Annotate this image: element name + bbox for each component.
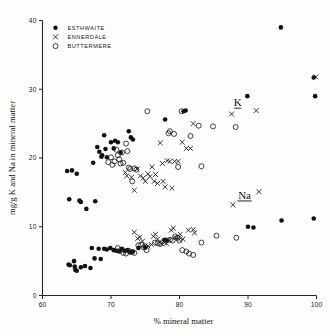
legend-marker-buttermere-icon (53, 44, 58, 49)
point-0-39 (88, 266, 93, 271)
y-tick-label-10: 10 (29, 223, 37, 230)
annotation-k: K (234, 96, 242, 108)
point-0-2 (67, 197, 72, 202)
legend-label-ennerdale: ENNERDALE (68, 34, 107, 40)
point-0-27 (245, 94, 250, 99)
x-tick-label-80: 80 (176, 301, 184, 308)
point-0-59 (246, 224, 251, 229)
series-ennerdale (123, 74, 318, 248)
point-0-6 (84, 207, 89, 212)
point-0-19 (116, 140, 121, 145)
point-0-24 (163, 117, 168, 122)
x-tick-label-60: 60 (39, 301, 47, 308)
legend-marker-ennerdale-icon (53, 34, 58, 39)
point-0-7 (91, 161, 96, 166)
point-0-8 (93, 199, 98, 204)
point-1-5 (138, 173, 143, 178)
y-tick-label-30: 30 (29, 86, 37, 93)
point-0-3 (74, 172, 79, 177)
point-0-28 (279, 25, 284, 30)
point-0-43 (98, 257, 103, 262)
point-0-21 (127, 129, 132, 134)
point-2-51 (199, 240, 204, 245)
point-2-27 (233, 125, 238, 130)
x-axis-title: % mineral matter (154, 316, 214, 326)
point-2-17 (145, 109, 150, 114)
point-1-9 (148, 174, 153, 179)
point-2-23 (188, 134, 193, 139)
point-2-53 (234, 235, 239, 240)
scatter-plot-figure: 01020304060708090100 KNa ESTHWAITEENNERD… (0, 0, 330, 336)
point-2-26 (211, 124, 216, 129)
point-0-60 (251, 225, 256, 230)
legend-item-esthwaite: ESTHWAITE (53, 25, 105, 31)
y-axis-title: mg/g K and Na in mineral matter (7, 101, 17, 215)
point-1-38 (153, 232, 158, 237)
point-0-12 (100, 153, 105, 158)
point-2-25 (199, 164, 204, 169)
point-0-38 (83, 264, 88, 269)
annotation-na: Na (238, 189, 251, 201)
point-0-40 (90, 246, 95, 251)
point-0-62 (311, 216, 316, 221)
point-2-12 (126, 165, 131, 170)
x-tick-label-90: 90 (244, 301, 252, 308)
point-0-33 (72, 259, 77, 264)
series-annotations-group: KNa (234, 96, 252, 201)
legend-item-buttermere: BUTTERMERE (53, 43, 112, 49)
point-1-10 (150, 164, 155, 169)
legend-label-esthwaite: ESTHWAITE (68, 25, 105, 31)
point-1-25 (188, 146, 193, 151)
point-0-42 (96, 246, 101, 251)
point-0-9 (95, 145, 100, 150)
point-0-1 (70, 168, 75, 173)
point-0-5 (79, 200, 84, 205)
x-tick-label-100: 100 (311, 301, 323, 308)
x-tick-label-70: 70 (107, 301, 115, 308)
point-1-12 (153, 172, 158, 177)
y-tick-label-40: 40 (29, 17, 37, 24)
point-1-14 (158, 140, 163, 145)
legend: ESTHWAITEENNERDALEBUTTERMERE (53, 25, 112, 49)
point-2-20 (172, 131, 177, 136)
point-1-17 (163, 184, 168, 189)
point-1-3 (132, 188, 137, 193)
point-2-52 (214, 233, 219, 238)
point-0-0 (65, 169, 70, 174)
point-1-15 (160, 161, 165, 166)
point-0-30 (313, 94, 318, 99)
point-0-23 (131, 137, 136, 142)
point-1-20 (170, 186, 175, 191)
legend-item-ennerdale: ENNERDALE (53, 34, 107, 40)
y-tick-label-0: 0 (33, 292, 37, 299)
point-1-46 (171, 226, 176, 231)
point-0-13 (102, 133, 107, 138)
y-tick-label-20: 20 (29, 154, 37, 161)
point-1-55 (257, 189, 262, 194)
point-1-24 (184, 146, 189, 151)
point-1-8 (146, 171, 151, 176)
point-2-21 (176, 164, 181, 169)
point-0-37 (79, 265, 84, 270)
point-0-41 (92, 256, 97, 261)
point-0-61 (279, 218, 284, 223)
point-0-32 (68, 263, 73, 268)
axis-titles-group: % mineral mattermg/g K and Na in mineral… (7, 101, 213, 326)
point-1-54 (230, 202, 235, 207)
point-1-32 (137, 235, 142, 240)
legend-marker-esthwaite-icon (53, 26, 57, 30)
point-1-51 (186, 228, 191, 233)
tick-marks-group (39, 21, 317, 300)
series-buttermere (106, 109, 239, 258)
chart-canvas: 01020304060708090100 KNa ESTHWAITEENNERD… (0, 0, 330, 336)
point-2-24 (196, 123, 201, 128)
point-1-16 (161, 179, 166, 184)
point-1-23 (180, 140, 185, 145)
point-2-11 (125, 149, 130, 154)
point-1-28 (254, 108, 259, 113)
point-0-16 (109, 140, 114, 145)
point-1-27 (229, 112, 234, 117)
axes-group (43, 21, 317, 296)
point-1-30 (132, 230, 137, 235)
point-0-36 (74, 268, 79, 273)
